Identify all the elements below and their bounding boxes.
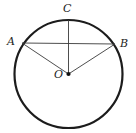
radius-ob-line [69,44,116,74]
point-label-c: C [63,3,71,14]
geometry-canvas [0,0,136,133]
point-label-o: O [54,69,63,80]
center-point-dot [66,72,70,76]
point-label-a: A [7,36,15,47]
geometry-figure: A B C O [0,0,136,133]
point-label-b: B [120,38,128,49]
